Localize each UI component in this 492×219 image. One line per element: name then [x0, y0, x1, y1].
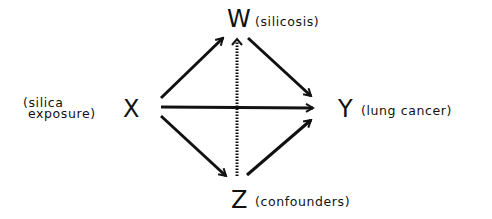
node-x-description-line2: exposure): [28, 108, 96, 120]
dotted-arrowhead-icon: [232, 39, 242, 45]
edge-w-to-y: [248, 38, 311, 96]
node-w-description: (silicosis): [255, 15, 319, 28]
edge-x-to-z: [161, 116, 226, 176]
node-y-letter: Y: [338, 97, 353, 121]
edge-x-to-y: [161, 107, 313, 108]
node-w-letter: W: [227, 7, 251, 31]
edge-x-to-w: [161, 38, 223, 98]
causal-diagram: W (silicosis) (silica exposure) X Y (lun…: [0, 0, 492, 219]
edge-z-to-y: [247, 120, 311, 175]
node-z-description: (confounders): [255, 195, 350, 208]
node-x-letter: X: [123, 97, 139, 121]
node-y-description: (lung cancer): [361, 104, 452, 117]
node-z-letter: Z: [231, 188, 247, 212]
